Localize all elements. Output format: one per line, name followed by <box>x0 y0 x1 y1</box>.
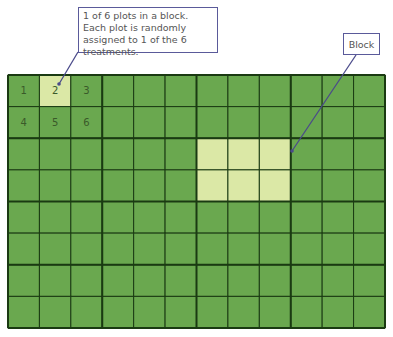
plot-cell <box>259 75 290 107</box>
plot-cell <box>8 170 39 202</box>
plot-cell <box>354 202 385 234</box>
plot-cell <box>134 107 165 139</box>
plot-cell <box>165 233 196 265</box>
plot-cell <box>71 296 102 328</box>
plot-cell <box>39 233 70 265</box>
plot-cell <box>102 265 133 297</box>
plot-cell <box>322 265 353 297</box>
plot-cell <box>165 75 196 107</box>
plot-cell <box>291 202 322 234</box>
plot-cell <box>102 296 133 328</box>
plot-cell <box>8 138 39 170</box>
plot-cell <box>291 265 322 297</box>
plot-cell <box>8 233 39 265</box>
plot-cell <box>259 107 290 139</box>
plot-cell <box>259 202 290 234</box>
plot-cell <box>197 296 228 328</box>
plot-cell <box>39 265 70 297</box>
plot-cell <box>354 75 385 107</box>
plot-cell <box>291 75 322 107</box>
plot-cell <box>322 170 353 202</box>
plot-cell <box>259 265 290 297</box>
plot-callout: 1 of 6 plots in a block. Each plot is ra… <box>78 7 218 53</box>
plot-cell <box>354 296 385 328</box>
plot-cell <box>102 202 133 234</box>
plot-cell <box>8 202 39 234</box>
plot-number-label: 6 <box>83 117 89 128</box>
plot-cell <box>39 296 70 328</box>
plot-cell <box>291 170 322 202</box>
plot-cell <box>259 233 290 265</box>
plot-cell <box>197 138 228 170</box>
plot-number-label: 1 <box>21 85 27 96</box>
plot-cell <box>71 233 102 265</box>
plot-cell <box>197 170 228 202</box>
plot-cell <box>102 75 133 107</box>
plot-cell <box>134 265 165 297</box>
plot-cell <box>39 202 70 234</box>
plot-cell <box>134 75 165 107</box>
plot-cell <box>228 170 259 202</box>
plot-cell <box>322 233 353 265</box>
plot-cell <box>354 233 385 265</box>
plot-cell <box>322 75 353 107</box>
plot-cell <box>134 202 165 234</box>
plot-cell <box>228 202 259 234</box>
plot-cell <box>228 296 259 328</box>
plot-cell <box>165 202 196 234</box>
plot-cell <box>259 170 290 202</box>
plot-cell <box>197 107 228 139</box>
block-callout: Block <box>343 33 380 55</box>
plot-cell <box>165 138 196 170</box>
plot-cell <box>165 265 196 297</box>
plot-number-label: 2 <box>52 85 58 96</box>
plot-cell <box>354 138 385 170</box>
plot-cell <box>165 107 196 139</box>
plot-cell <box>291 296 322 328</box>
plot-cell <box>197 233 228 265</box>
plot-cell <box>197 265 228 297</box>
plot-cell <box>322 107 353 139</box>
plot-cell <box>71 265 102 297</box>
plot-cell <box>102 170 133 202</box>
plot-cell <box>354 265 385 297</box>
plot-cell <box>354 170 385 202</box>
plot-cell <box>291 233 322 265</box>
plot-cell <box>228 138 259 170</box>
plot-arrow-head <box>57 82 61 86</box>
plot-cell <box>228 107 259 139</box>
plot-cell <box>102 107 133 139</box>
plot-cell <box>134 138 165 170</box>
plot-number-label: 5 <box>52 117 58 128</box>
plot-cell <box>197 202 228 234</box>
plot-cell <box>8 296 39 328</box>
plot-cell <box>291 138 322 170</box>
plot-cell <box>102 138 133 170</box>
plot-cell <box>71 202 102 234</box>
plot-cell <box>291 107 322 139</box>
plot-number-label: 3 <box>83 85 89 96</box>
plot-cell <box>259 296 290 328</box>
plot-number-label: 4 <box>21 117 27 128</box>
plot-cell <box>197 75 228 107</box>
plot-cell <box>39 138 70 170</box>
plot-cell <box>322 202 353 234</box>
plot-cell <box>102 233 133 265</box>
plot-cell <box>259 138 290 170</box>
plot-cell <box>134 233 165 265</box>
plot-cell <box>228 75 259 107</box>
plot-cell <box>165 296 196 328</box>
plot-cell <box>8 265 39 297</box>
plot-cell <box>134 170 165 202</box>
plot-cell <box>165 170 196 202</box>
plot-cell <box>354 107 385 139</box>
plot-cell <box>322 138 353 170</box>
block-arrow-head <box>290 149 294 153</box>
plot-cell <box>71 170 102 202</box>
plot-cell <box>134 296 165 328</box>
plot-cell <box>71 138 102 170</box>
plot-cell <box>39 170 70 202</box>
plot-cell <box>228 265 259 297</box>
plot-cell <box>322 296 353 328</box>
plot-cell <box>228 233 259 265</box>
